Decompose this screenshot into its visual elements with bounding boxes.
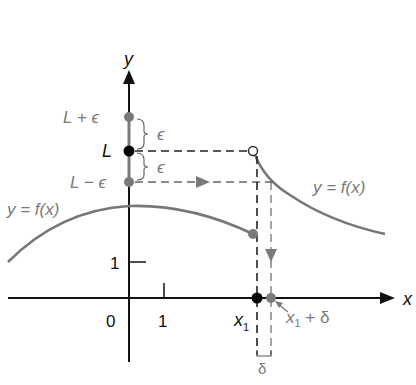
x-axis-arrow-icon xyxy=(380,292,395,304)
x1-plus-delta-label: x1 + δ xyxy=(286,309,329,329)
x-axis-label: x xyxy=(403,290,412,308)
l-label: L xyxy=(102,142,112,160)
epsilon-brace-lower xyxy=(137,153,148,180)
right-arrow-icon xyxy=(196,176,210,188)
left-curve-label: y = f(x) xyxy=(7,201,59,218)
l-minus-epsilon-label: L − ϵ xyxy=(70,174,106,191)
l-plus-epsilon-dot xyxy=(124,112,134,122)
l-minus-epsilon-dot xyxy=(124,177,134,187)
x1-plus-delta-dot xyxy=(266,293,276,303)
y-tick-label-1: 1 xyxy=(110,255,119,272)
delta-label: δ xyxy=(258,361,266,376)
l-dot xyxy=(124,146,135,157)
x-tick-label-0: 0 xyxy=(106,313,115,330)
down-arrow-icon xyxy=(265,249,277,262)
epsilon-brace-upper xyxy=(137,119,148,149)
x-tick-label-1: 1 xyxy=(158,313,167,330)
right-curve-label: y = f(x) xyxy=(313,179,365,196)
left-curve-endpoint-dot xyxy=(248,229,258,239)
open-circle-limit xyxy=(249,147,258,156)
delta-bracket xyxy=(257,350,271,356)
epsilon-upper-label: ϵ xyxy=(157,126,165,143)
x1-dot xyxy=(252,293,263,304)
y-axis-label: y xyxy=(124,50,133,68)
y-axis-arrow-icon xyxy=(123,70,135,84)
x1-label: x1 xyxy=(234,311,249,333)
epsilon-lower-label: ϵ xyxy=(157,159,165,176)
l-plus-epsilon-label: L + ϵ xyxy=(63,109,99,126)
epsilon-delta-limit-diagram: y x 0 1 1 L + ϵ L L − ϵ ϵ ϵ y = f(x) y =… xyxy=(0,0,416,385)
x-axis xyxy=(8,292,395,304)
